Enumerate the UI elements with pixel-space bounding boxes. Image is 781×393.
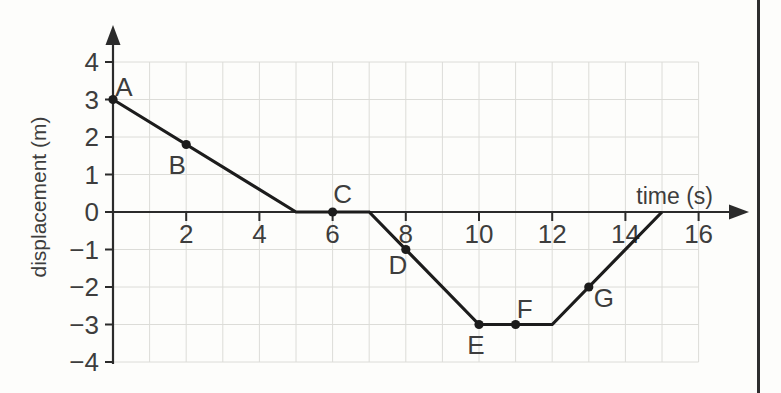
y-axis-label: displacement (m)	[27, 116, 50, 277]
y-tick-label: 0	[85, 197, 99, 227]
x-tick-label: 2	[179, 219, 193, 249]
x-tick-label: 4	[252, 219, 266, 249]
point-label-G: G	[594, 283, 614, 313]
data-point-B	[182, 140, 191, 149]
x-axis-label: time (s)	[636, 183, 713, 209]
data-point-G	[584, 282, 593, 291]
x-tick-label: 6	[325, 219, 339, 249]
y-tick-label: −4	[69, 347, 99, 377]
point-label-F: F	[517, 294, 533, 324]
y-tick-label: 3	[85, 85, 99, 115]
point-label-A: A	[115, 72, 133, 102]
data-point-E	[474, 320, 483, 329]
y-tick-label: −2	[69, 272, 99, 302]
scanned-textbook-page: 24681012141643210−1−2−3−4ABCDEFGtime (s)…	[0, 0, 781, 393]
x-tick-label: 12	[538, 219, 567, 249]
y-tick-label: 2	[85, 122, 99, 152]
point-label-C: C	[333, 179, 352, 209]
y-tick-label: −1	[69, 235, 99, 265]
point-label-B: B	[169, 150, 186, 180]
page-edge-line	[757, 0, 760, 393]
y-tick-label: 4	[85, 47, 99, 77]
y-tick-label: 1	[85, 160, 99, 190]
point-label-D: D	[388, 250, 407, 280]
x-tick-label: 10	[465, 219, 494, 249]
y-tick-label: −3	[69, 310, 99, 340]
x-tick-label: 16	[684, 219, 713, 249]
x-tick-label: 14	[611, 219, 640, 249]
y-axis-arrow-icon	[106, 25, 121, 45]
point-label-E: E	[467, 330, 484, 360]
displacement-time-graph: 24681012141643210−1−2−3−4ABCDEFGtime (s)…	[0, 0, 781, 393]
x-axis-arrow-icon	[729, 205, 749, 220]
